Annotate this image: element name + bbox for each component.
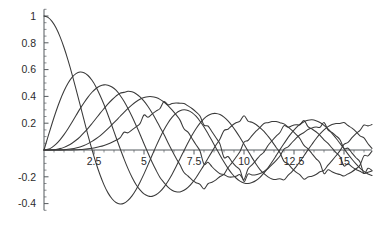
curve-j0: [44, 16, 372, 204]
x-tick-label: 15: [338, 155, 350, 167]
x-tick-label: 7.5: [187, 155, 202, 167]
bessel-function-plot: 2.557.51012.51510.80.60.40.2-0.2-0.4: [0, 0, 384, 229]
y-tick-label: 1: [30, 10, 36, 22]
y-tick-label: 0.6: [21, 63, 36, 75]
y-tick-label: -0.2: [18, 171, 36, 183]
axis-lines-group: [44, 9, 372, 210]
x-tick-label: 12.5: [284, 155, 305, 167]
y-tick-label: 0.4: [21, 90, 36, 102]
y-tick-label: -0.4: [18, 197, 36, 209]
curves-group: [44, 16, 372, 204]
curve-j5: [44, 101, 372, 181]
y-tick-label: 0.8: [21, 37, 36, 49]
plot-canvas: 2.557.51012.51510.80.60.40.2-0.2-0.4: [0, 0, 384, 229]
curve-j4: [44, 97, 372, 180]
x-tick-label: 10: [238, 155, 250, 167]
x-tick-label: 2.5: [87, 155, 102, 167]
x-tick-label: 5: [141, 155, 147, 167]
minor-ticks-group: [44, 9, 364, 210]
y-tick-label: 0.2: [21, 117, 36, 129]
